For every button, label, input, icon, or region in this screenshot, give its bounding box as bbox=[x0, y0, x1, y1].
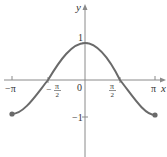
cosine-curve bbox=[12, 43, 155, 115]
svg-text:π: π bbox=[110, 82, 114, 91]
svg-text:−: − bbox=[46, 84, 51, 94]
tick-label-zero: 0 bbox=[77, 82, 82, 93]
y-axis-arrow-icon bbox=[83, 4, 88, 10]
tick-label-half-pi: π 2 bbox=[109, 82, 116, 99]
right-endpoint-dot bbox=[152, 112, 157, 117]
svg-text:2: 2 bbox=[111, 91, 115, 99]
svg-text:π: π bbox=[55, 82, 59, 91]
y-axis-label: y bbox=[75, 1, 81, 13]
tick-label-neg-half-pi: − π 2 bbox=[46, 82, 61, 99]
left-endpoint-dot bbox=[9, 111, 14, 116]
tick-label-pi: π bbox=[151, 83, 156, 94]
x-axis-label: x bbox=[160, 82, 166, 94]
svg-text:2: 2 bbox=[56, 91, 60, 99]
tick-label-y-one: 1 bbox=[78, 32, 83, 43]
tick-label-neg-pi: −π bbox=[5, 83, 16, 94]
cosine-chart: y x −π − π 2 0 π 2 π 1 −1 bbox=[0, 0, 167, 157]
tick-label-y-neg-one: −1 bbox=[72, 112, 83, 123]
